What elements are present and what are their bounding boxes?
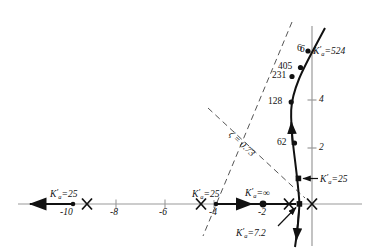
dot-62 — [292, 140, 297, 145]
point-label-128: 128 — [268, 97, 282, 107]
gain-value: 25 — [68, 189, 78, 199]
annotation-k-524: K′a=524 — [313, 45, 345, 58]
dot-231 — [289, 74, 294, 79]
dot-k25-right — [296, 176, 302, 182]
locus-arrow-up — [291, 122, 292, 145]
annotation-k-25-left: K′a=25 — [50, 188, 77, 201]
gain-value: 524 — [331, 46, 345, 56]
leader-k7p2 — [278, 208, 296, 227]
x-tick-label-minus10: -10 — [60, 208, 73, 218]
annotation-k-infinity: K′a=∞ — [245, 187, 270, 200]
dot-k25-mid — [214, 202, 219, 207]
annotation-k-25-right: K′a=25 — [320, 173, 347, 186]
dot-128 — [289, 99, 294, 104]
root-locus-plot: -10 -8 -6 -4 -2 2 4 6 K′a=25 K′a=25 K′a=… — [0, 0, 372, 252]
x-tick-label-minus4: -4 — [209, 208, 217, 218]
point-label-6: 6 — [297, 44, 302, 54]
gain-value: 25 — [338, 174, 348, 184]
x-tick-label-minus8: -8 — [110, 208, 118, 218]
y-tick-label-2: 2 — [319, 143, 324, 153]
x-tick-label-minus6: -6 — [159, 208, 167, 218]
annotation-k-7p2: K′a=7.2 — [236, 227, 266, 240]
point-label-62: 62 — [277, 138, 287, 148]
plot-canvas — [0, 0, 372, 252]
gain-value: 25 — [210, 189, 220, 199]
y-tick-label-4: 4 — [319, 95, 324, 105]
x-tick-label-minus2: -2 — [258, 208, 266, 218]
annotation-k-25-mid: K′a=25 — [192, 188, 219, 201]
dot-k7p2 — [297, 201, 303, 207]
dot-6 — [305, 48, 310, 53]
gain-value: ∞ — [263, 188, 270, 198]
dot-k25-left — [71, 202, 76, 207]
gain-value: 7.2 — [254, 228, 266, 238]
point-label-231: 231 — [272, 71, 286, 81]
